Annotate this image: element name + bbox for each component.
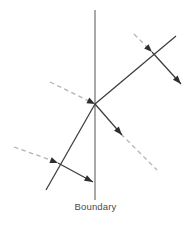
extension-lower-right-dashed — [121, 134, 157, 170]
normal-main-interface-dashed — [50, 82, 93, 103]
transmitted-ray-upper-right — [95, 36, 176, 104]
arrowhead-secondary-lower-left — [84, 175, 95, 185]
ray-diagram — [0, 0, 191, 225]
normal-lower-left-dashed — [14, 147, 56, 162]
arrowhead-into-lower-left-crossing — [49, 157, 59, 166]
boundary-label: Boundary — [0, 201, 191, 212]
dashed-normals-group — [14, 34, 157, 170]
figure-canvas: Boundary — [0, 0, 191, 225]
solid-rays-group — [46, 36, 181, 190]
